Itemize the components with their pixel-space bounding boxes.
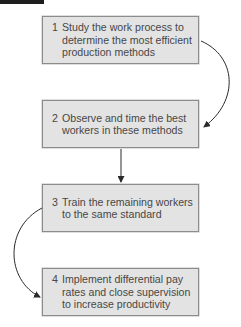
step-1-box: 1 Study the work process to determine th…	[42, 16, 199, 64]
step-3-text: Train the remaining workers to the same …	[62, 196, 193, 221]
step-2-number: 2	[52, 112, 62, 124]
arrow-1-to-2	[201, 41, 229, 127]
top-edge-bar	[0, 0, 44, 4]
step-3-number: 3	[52, 196, 62, 208]
step-4-number: 4	[52, 273, 62, 285]
step-2-text: Observe and time the best workers in the…	[62, 112, 186, 137]
step-3-box: 3 Train the remaining workers to the sam…	[42, 184, 199, 232]
arrow-3-to-4	[14, 208, 42, 297]
step-1-number: 1	[52, 21, 62, 33]
step-4-text: Implement differential pay rates and clo…	[62, 273, 190, 310]
step-4-box: 4 Implement differential pay rates and c…	[42, 268, 199, 316]
step-2-box: 2 Observe and time the best workers in t…	[42, 100, 199, 148]
step-1-text: Study the work process to determine the …	[62, 21, 192, 58]
